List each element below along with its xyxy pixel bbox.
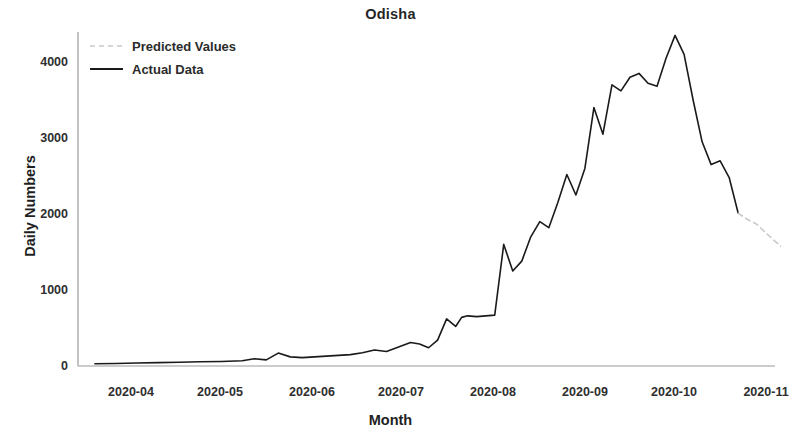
legend-label-actual-data: Actual Data (132, 62, 204, 77)
legend-label-predicted-values: Predicted Values (132, 39, 236, 54)
x-axis-title: Month (0, 412, 781, 428)
y-tick-label-1000: 1000 (8, 283, 68, 297)
x-tick-label-2020-11: 2020-11 (721, 385, 793, 399)
x-tick-label-2020-04: 2020-04 (86, 385, 176, 399)
y-tick-label-3000: 3000 (8, 131, 68, 145)
x-tick-label-2020-05: 2020-05 (175, 385, 265, 399)
y-axis-title: Daily Numbers (22, 116, 38, 296)
y-tick-label-0: 0 (8, 359, 68, 373)
y-tick-label-2000: 2000 (8, 207, 68, 221)
y-tick-label-4000: 4000 (8, 55, 68, 69)
x-tick-label-2020-08: 2020-08 (448, 385, 538, 399)
x-tick-label-2020-10: 2020-10 (629, 385, 719, 399)
x-tick-label-2020-09: 2020-09 (540, 385, 630, 399)
x-tick-label-2020-06: 2020-06 (267, 385, 357, 399)
x-tick-label-2020-07: 2020-07 (356, 385, 446, 399)
series-line-predicted-values (738, 213, 781, 248)
series-line-actual-data (95, 35, 738, 363)
